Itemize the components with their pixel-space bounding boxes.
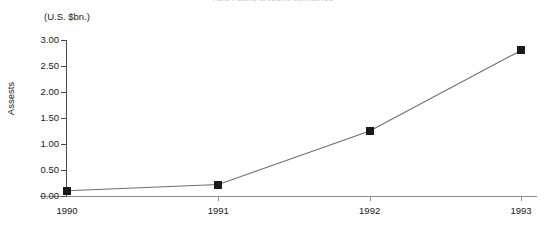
data-point-marker	[214, 181, 222, 189]
data-point-marker	[63, 187, 71, 195]
line-chart: Asia-Pacific property derivatives (U.S. …	[0, 0, 546, 228]
series-line-layer	[0, 0, 546, 228]
series-polyline	[67, 50, 521, 190]
data-point-marker	[517, 46, 525, 54]
data-point-marker	[366, 127, 374, 135]
